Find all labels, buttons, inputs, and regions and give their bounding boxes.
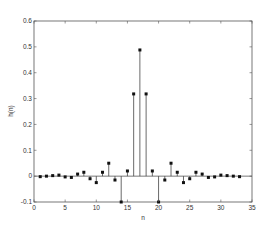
y-tick-label: 0.2 bbox=[23, 121, 32, 128]
stem-marker bbox=[213, 175, 216, 178]
x-axis-ticks: 05101520253035 bbox=[32, 21, 256, 211]
stem-marker bbox=[226, 174, 229, 177]
y-tick-label: 0.5 bbox=[23, 43, 32, 50]
stem-marker bbox=[201, 173, 204, 176]
y-tick-label: 0.6 bbox=[23, 17, 32, 24]
stem-marker bbox=[163, 179, 166, 182]
y-tick-label: 0.1 bbox=[23, 147, 32, 154]
axes-box bbox=[34, 21, 252, 202]
stem-marker bbox=[132, 92, 135, 95]
y-tick-label: 0.3 bbox=[23, 95, 32, 102]
y-tick-label: 0.4 bbox=[23, 69, 32, 76]
stem-marker bbox=[182, 181, 185, 184]
stem-marker bbox=[39, 175, 42, 178]
stem-marker bbox=[138, 48, 141, 51]
x-tick-label: 0 bbox=[32, 204, 36, 211]
stem-marker bbox=[188, 177, 191, 180]
y-tick-label: 0 bbox=[28, 172, 32, 179]
stem-marker bbox=[101, 171, 104, 174]
stem-marker bbox=[176, 171, 179, 174]
x-tick-label: 20 bbox=[155, 204, 163, 211]
stem-marker bbox=[82, 171, 85, 174]
stem-marker bbox=[70, 176, 73, 179]
stem-marker bbox=[95, 181, 98, 184]
stem-marker bbox=[145, 92, 148, 95]
stem-marker bbox=[170, 162, 173, 165]
x-tick-label: 5 bbox=[63, 204, 67, 211]
y-axis-ticks: -0.100.10.20.30.40.50.6 bbox=[21, 17, 252, 205]
y-tick-label: -0.1 bbox=[21, 198, 33, 205]
x-tick-label: 35 bbox=[248, 204, 256, 211]
stem-marker bbox=[126, 169, 129, 172]
stem-marker bbox=[151, 169, 154, 172]
x-axis-label: n bbox=[141, 214, 145, 221]
x-tick-label: 30 bbox=[217, 204, 225, 211]
stem-marker bbox=[207, 176, 210, 179]
stem-marker bbox=[238, 175, 241, 178]
stems bbox=[39, 48, 241, 203]
stem-marker bbox=[194, 171, 197, 174]
stem-marker bbox=[232, 175, 235, 178]
x-tick-label: 15 bbox=[124, 204, 132, 211]
plot-frame bbox=[34, 21, 252, 202]
x-tick-label: 10 bbox=[93, 204, 101, 211]
stem-marker bbox=[107, 162, 110, 165]
stem-marker bbox=[76, 173, 79, 176]
stem-marker bbox=[89, 177, 92, 180]
stem-marker bbox=[57, 174, 60, 177]
x-tick-label: 25 bbox=[186, 204, 194, 211]
stem-marker bbox=[120, 201, 123, 204]
stem-marker bbox=[64, 175, 67, 178]
stem-marker bbox=[51, 174, 54, 177]
stem-marker bbox=[219, 174, 222, 177]
y-axis-label: h(n) bbox=[7, 105, 15, 117]
stem-plot: 05101520253035 -0.100.10.20.30.40.50.6 n… bbox=[0, 0, 268, 226]
stem-marker bbox=[45, 175, 48, 178]
stem-marker bbox=[113, 179, 116, 182]
